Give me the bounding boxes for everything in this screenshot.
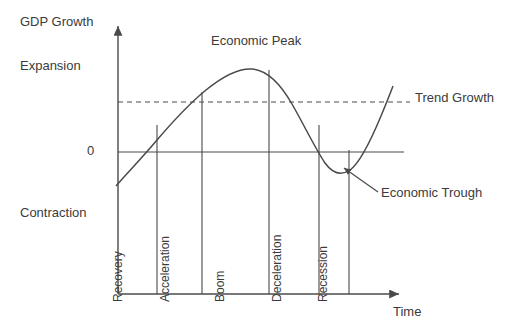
phase-label-deceleration: Deceleration	[270, 235, 284, 302]
phase-label-recession: Recession	[316, 246, 330, 302]
y-axis-zero-tick-label: 0	[87, 143, 94, 158]
phase-label-boom: Boom	[213, 271, 227, 302]
y-axis-title: GDP Growth	[20, 14, 93, 29]
phase-label-recovery: Recovery	[111, 251, 125, 302]
phase-label-acceleration: Acceleration	[158, 236, 172, 302]
trend-growth-annotation: Trend Growth	[415, 90, 494, 105]
economic-cycle-diagram: GDP Growth Expansion 0 Contraction Econo…	[0, 0, 512, 328]
y-axis-expansion-label: Expansion	[20, 58, 81, 73]
diagram-canvas	[0, 0, 512, 328]
economic-peak-annotation: Economic Peak	[211, 33, 301, 48]
economic-trough-annotation: Economic Trough	[381, 185, 482, 200]
x-axis-title: Time	[393, 304, 421, 319]
y-axis-contraction-label: Contraction	[20, 205, 86, 220]
